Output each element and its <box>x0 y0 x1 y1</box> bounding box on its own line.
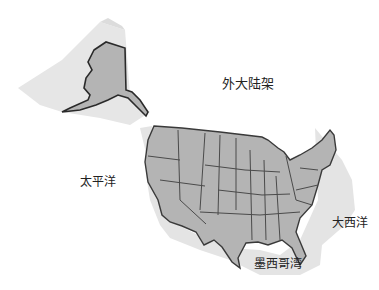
label-atlantic: 大西洋 <box>332 213 368 230</box>
label-pacific: 太平洋 <box>80 172 116 189</box>
label-gulf: 墨西哥湾 <box>254 254 302 271</box>
map-canvas: 外大陆架 太平洋 大西洋 墨西哥湾 <box>0 0 379 290</box>
label-outer-shelf: 外大陆架 <box>222 73 274 92</box>
map-graphic <box>0 0 379 290</box>
